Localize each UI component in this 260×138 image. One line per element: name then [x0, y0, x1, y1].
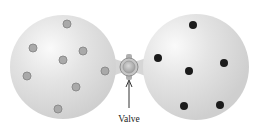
valve-knob-icon	[123, 61, 135, 73]
black-particle	[180, 102, 188, 110]
two-bulb-diagram: Valve	[0, 0, 260, 138]
gray-particle	[72, 83, 80, 91]
gray-particle	[23, 72, 31, 80]
black-particle	[185, 67, 193, 75]
arrow-up-icon	[126, 80, 132, 108]
valve-label: Valve	[118, 114, 140, 124]
black-particle	[220, 59, 228, 67]
right-bulb	[143, 14, 249, 120]
gray-particle	[29, 44, 37, 52]
valve[interactable]	[120, 54, 138, 80]
gray-particle	[54, 105, 62, 113]
gray-particle	[63, 20, 71, 28]
black-particle	[216, 101, 224, 109]
gray-particle	[79, 47, 87, 55]
black-particle	[154, 54, 162, 62]
left-bulb	[10, 15, 116, 119]
gray-particle	[59, 56, 67, 64]
black-particle	[189, 21, 197, 29]
gray-particle	[101, 67, 109, 75]
